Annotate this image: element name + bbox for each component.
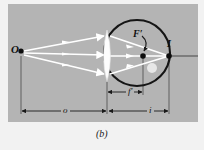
- image-point-marker: [166, 53, 172, 59]
- focal-point-label: F′: [133, 29, 142, 39]
- optics-figure: O F′ I o f′ i (b): [0, 0, 204, 150]
- light-spot: [147, 63, 157, 73]
- ray-outgoing-lower: [110, 56, 169, 74]
- focal-point-leader-arrow: [142, 36, 146, 51]
- image-distance-label: i: [147, 106, 154, 115]
- converging-lens: [104, 30, 111, 82]
- image-point-label: I: [167, 39, 171, 49]
- focal-point-marker: [140, 53, 146, 59]
- ray-outgoing-middle-arrowhead: [126, 54, 134, 59]
- ray-outgoing-upper: [110, 36, 169, 56]
- focal-length-label: f′: [126, 87, 134, 96]
- ray-incoming-upper: [24, 36, 104, 51]
- ray-outgoing-upper-arrowhead: [126, 45, 134, 49]
- object-distance-label: o: [61, 106, 70, 115]
- object-point-label: O: [11, 44, 19, 55]
- figure-caption: (b): [96, 129, 108, 139]
- object-point-marker: [18, 48, 23, 53]
- ray-arrowhead-middle-mid: [62, 53, 70, 56]
